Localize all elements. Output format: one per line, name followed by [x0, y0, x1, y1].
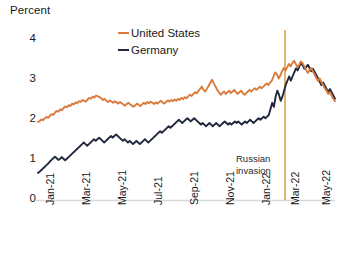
x-tick-mar-22: Mar-22: [289, 172, 301, 205]
series-line-united-states: [38, 61, 335, 122]
x-tick-jan-21: Jan-21: [44, 173, 56, 205]
x-tick-mar-21: Mar-21: [80, 172, 92, 205]
x-tick-jan-22: Jan-22: [260, 173, 272, 205]
legend-label-germany: Germany: [131, 44, 178, 56]
legend-item-united-states: United States: [118, 27, 200, 39]
y-tick-0: 0: [18, 192, 36, 204]
legend-swatch-united-states: [118, 32, 129, 35]
y-axis-title: Percent: [10, 4, 50, 16]
chart-figure: Percent 4 3 2 1 0 United States Germany …: [0, 0, 339, 262]
x-tick-nov-21: Nov-21: [224, 171, 236, 205]
y-tick-4: 4: [18, 32, 36, 44]
series-line-germany: [38, 63, 335, 173]
y-tick-1: 1: [18, 152, 36, 164]
x-tick-jul-21: Jul-21: [152, 176, 164, 205]
y-tick-3: 3: [18, 72, 36, 84]
legend-label-united-states: United States: [131, 27, 200, 39]
legend-item-germany: Germany: [118, 44, 178, 56]
x-tick-sep-21: Sep-21: [188, 171, 200, 205]
legend-swatch-germany: [118, 49, 129, 52]
annotation-line-1: Russian: [236, 153, 271, 165]
y-tick-2: 2: [18, 112, 36, 124]
x-tick-may-22: May-22: [320, 170, 332, 205]
x-tick-may-21: May-21: [116, 170, 128, 205]
plot-area: [0, 0, 339, 262]
